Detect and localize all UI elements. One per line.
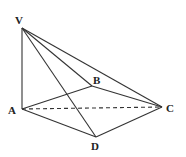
edges xyxy=(22,28,162,137)
edge-BC xyxy=(92,86,162,107)
label-C: C xyxy=(166,102,174,114)
edge-AD xyxy=(22,109,96,137)
edge-AB xyxy=(22,86,92,109)
edge-AC-hidden xyxy=(22,107,162,109)
edge-VC xyxy=(22,28,162,107)
pyramid-diagram: V A B C D xyxy=(0,0,186,157)
label-A: A xyxy=(8,104,16,116)
edge-VD xyxy=(22,28,96,137)
label-D: D xyxy=(91,140,99,152)
edge-VB xyxy=(22,28,92,86)
label-B: B xyxy=(93,74,101,86)
edge-DC xyxy=(96,107,162,137)
label-V: V xyxy=(15,14,23,26)
